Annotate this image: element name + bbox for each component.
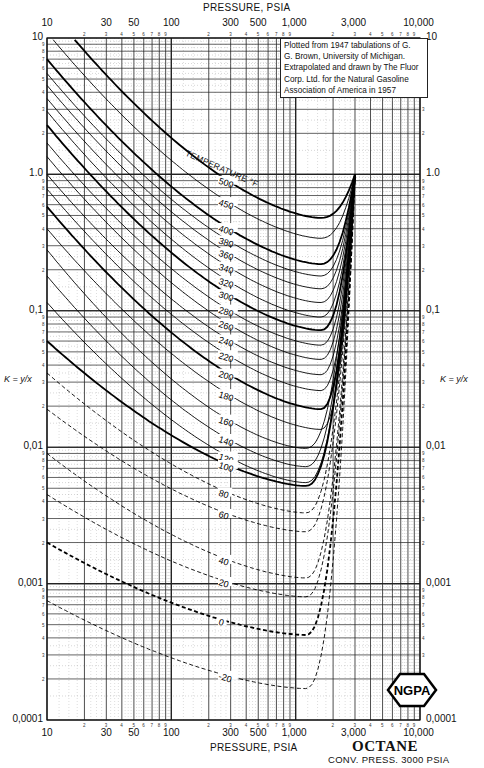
svg-text:7: 7 <box>42 603 45 608</box>
grid-lines <box>47 38 420 720</box>
curve-60F <box>47 174 355 531</box>
svg-text:7: 7 <box>399 32 402 37</box>
svg-text:4: 4 <box>369 32 372 37</box>
note-line: Extrapolated and drawn by The Fluor <box>284 62 424 73</box>
svg-text:4: 4 <box>422 227 425 232</box>
svg-text:9: 9 <box>42 179 45 184</box>
x-tick-label: 100 <box>163 727 180 738</box>
svg-text:6: 6 <box>267 723 270 728</box>
svg-text:5: 5 <box>42 486 45 491</box>
svg-text:6: 6 <box>142 32 145 37</box>
y-tick-label-right: 0,1 <box>426 304 440 315</box>
svg-text:7: 7 <box>275 32 278 37</box>
chart-subtitle: CONV. PRESS. 3000 PSIA <box>328 754 449 765</box>
svg-text:5: 5 <box>422 623 425 628</box>
svg-text:8: 8 <box>422 595 425 600</box>
svg-text:2: 2 <box>42 268 45 273</box>
svg-text:6: 6 <box>422 475 425 480</box>
source-annotation: Plotted from 1947 tabulations of G. G. B… <box>280 38 428 98</box>
y-tick-label-left: 10 <box>32 31 43 42</box>
svg-text:3: 3 <box>422 517 425 522</box>
svg-text:6: 6 <box>42 475 45 480</box>
svg-text:2: 2 <box>207 32 210 37</box>
svg-text:5: 5 <box>42 623 45 628</box>
svg-text:4: 4 <box>42 363 45 368</box>
svg-text:9: 9 <box>413 32 416 37</box>
svg-text:2: 2 <box>42 404 45 409</box>
svg-text:6: 6 <box>422 203 425 208</box>
y-tick-label-left: 0,0001 <box>12 713 43 724</box>
temperature-labels: 5004504003803603403203002802602402202001… <box>217 176 237 685</box>
svg-text:4: 4 <box>422 363 425 368</box>
svg-text:2: 2 <box>422 404 425 409</box>
svg-text:9: 9 <box>422 315 425 320</box>
curve-340F <box>47 99 355 303</box>
svg-text:8: 8 <box>422 186 425 191</box>
svg-text:8: 8 <box>158 723 161 728</box>
x-tick-label: 3,000 <box>341 727 366 738</box>
svg-text:7: 7 <box>151 723 154 728</box>
svg-text:6: 6 <box>422 612 425 617</box>
x-tick-label: 500 <box>250 17 267 28</box>
curve-label: 60 <box>217 509 230 522</box>
curve-0F <box>47 174 355 635</box>
svg-text:3: 3 <box>42 380 45 385</box>
svg-text:3: 3 <box>42 653 45 658</box>
curve-100F <box>47 174 355 486</box>
svg-text:7: 7 <box>42 330 45 335</box>
svg-text:5: 5 <box>132 32 135 37</box>
curve--20F <box>47 174 355 688</box>
note-line: G. Brown, University of Michigan. <box>284 51 424 62</box>
x-tick-label: 10,000 <box>403 727 434 738</box>
svg-text:2: 2 <box>332 32 335 37</box>
svg-text:3: 3 <box>422 244 425 249</box>
y-tick-label-left: 0,001 <box>18 577 43 588</box>
svg-text:8: 8 <box>158 32 161 37</box>
svg-text:3: 3 <box>353 32 356 37</box>
svg-text:5: 5 <box>422 486 425 491</box>
k-value-chart: 5004504003803603403203002802602402202001… <box>0 0 484 768</box>
x-tick-label: 30 <box>101 727 112 738</box>
svg-text:6: 6 <box>142 723 145 728</box>
svg-text:7: 7 <box>422 330 425 335</box>
svg-text:2: 2 <box>422 268 425 273</box>
note-line: Association of America in 1957 <box>284 85 424 96</box>
svg-text:5: 5 <box>42 350 45 355</box>
svg-text:8: 8 <box>42 49 45 54</box>
left-axis-title: K = y/x <box>4 374 32 384</box>
svg-text:4: 4 <box>422 636 425 641</box>
svg-text:6: 6 <box>391 723 394 728</box>
x-tick-label: 300 <box>222 17 239 28</box>
svg-text:8: 8 <box>422 322 425 327</box>
right-axis-title: K = y/x <box>440 374 468 384</box>
svg-text:2: 2 <box>207 723 210 728</box>
svg-text:8: 8 <box>42 458 45 463</box>
svg-text:3: 3 <box>105 32 108 37</box>
x-tick-label: 100 <box>163 17 180 28</box>
curve-label: 20 <box>217 577 230 590</box>
svg-text:3: 3 <box>229 32 232 37</box>
curve-320F <box>47 111 355 317</box>
svg-text:9: 9 <box>42 451 45 456</box>
svg-text:5: 5 <box>381 723 384 728</box>
svg-text:2: 2 <box>422 541 425 546</box>
svg-text:9: 9 <box>164 32 167 37</box>
y-tick-label-left: 1.0 <box>29 167 43 178</box>
svg-text:9: 9 <box>422 588 425 593</box>
svg-text:2: 2 <box>83 32 86 37</box>
svg-text:8: 8 <box>406 32 409 37</box>
svg-text:2: 2 <box>332 723 335 728</box>
curve-label: 40 <box>217 555 230 568</box>
svg-text:8: 8 <box>282 32 285 37</box>
svg-text:5: 5 <box>381 32 384 37</box>
svg-text:4: 4 <box>245 32 248 37</box>
svg-text:3: 3 <box>42 244 45 249</box>
svg-text:5: 5 <box>422 350 425 355</box>
note-line: Corp. Ltd. for the Natural Gasoline <box>284 74 424 85</box>
x-tick-label: 500 <box>250 727 267 738</box>
curve-180F <box>47 174 355 429</box>
svg-text:4: 4 <box>369 723 372 728</box>
x-tick-label: 1,000 <box>282 727 307 738</box>
y-tick-label-right: 0,0001 <box>426 713 457 724</box>
x-tick-label: 50 <box>128 727 139 738</box>
